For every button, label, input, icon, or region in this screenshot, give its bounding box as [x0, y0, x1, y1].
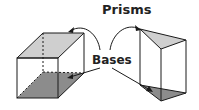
bases-label: Bases: [92, 53, 132, 67]
arrow-to-prism-top: [110, 27, 140, 50]
diagram-title: Prisms: [102, 2, 151, 17]
cube-top-base: [17, 33, 84, 58]
prism-top-base: [140, 29, 186, 49]
rectangular-prism: [17, 33, 84, 98]
arrow-to-cube-bottom: [70, 68, 100, 77]
prism-bottom-base: [140, 85, 186, 101]
arrow-to-prism-bottom: [112, 68, 150, 90]
